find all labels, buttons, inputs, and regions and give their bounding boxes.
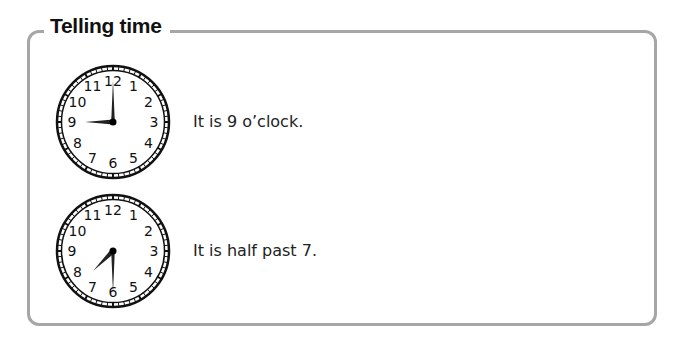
clock-number: 5	[129, 150, 138, 166]
clock-number: 2	[144, 94, 153, 110]
caption-half-past-7: It is half past 7.	[193, 241, 317, 260]
clock-number: 4	[144, 135, 153, 151]
clock-number: 9	[68, 114, 77, 130]
section-title: Telling time	[50, 14, 162, 37]
clock-number: 11	[84, 207, 102, 223]
section-title-wrap: Telling time	[44, 14, 170, 38]
clock-number: 10	[69, 94, 87, 110]
clock-number: 8	[73, 135, 82, 151]
caption-9-oclock: It is 9 o’clock.	[193, 112, 303, 131]
clock-number: 8	[73, 264, 82, 280]
clock-number: 4	[144, 264, 153, 280]
clock-number: 11	[84, 78, 102, 94]
clock-9-oclock: 121234567891011	[53, 62, 173, 182]
clock-number: 1	[129, 78, 138, 94]
clock-number: 2	[144, 223, 153, 239]
clock-number: 7	[88, 279, 97, 295]
clock-number: 3	[150, 114, 159, 130]
clock-number: 7	[88, 150, 97, 166]
clock-half-past-7: 121234567891011	[53, 191, 173, 311]
clock-number: 5	[129, 279, 138, 295]
clock-number: 10	[69, 223, 87, 239]
clock-number: 6	[109, 155, 118, 171]
clock-number: 12	[104, 202, 122, 218]
clock-number: 1	[129, 207, 138, 223]
clock-number: 3	[150, 243, 159, 259]
clock-number: 9	[68, 243, 77, 259]
